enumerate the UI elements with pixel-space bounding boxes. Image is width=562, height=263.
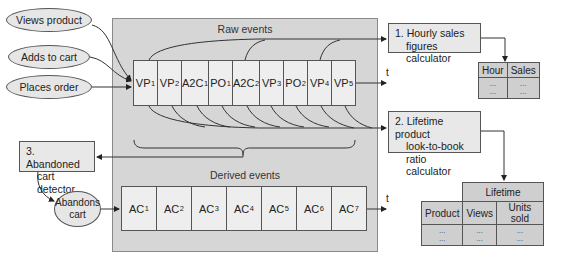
processor-label: look-to-book — [395, 140, 474, 153]
raw-event-cell: VP3 — [260, 61, 284, 105]
look-to-book-calculator: 2. Lifetime product look-to-book ratio c… — [388, 111, 481, 153]
input-places-order: Places order — [6, 75, 92, 99]
derived-event-cell: AC4 — [227, 187, 262, 230]
input-label: Adds to cart — [21, 51, 77, 63]
raw-event-cell: VP5 — [332, 61, 355, 105]
raw-event-cell: VP1 — [134, 61, 158, 105]
raw-event-cell: VP2 — [158, 61, 182, 105]
derived-events-strip: AC1 AC2 AC3 AC4 AC5 AC6 AC7 — [121, 186, 367, 231]
event-label: Abandons — [55, 197, 100, 208]
derived-time-label: t — [386, 193, 389, 204]
processor-label: figures calculator — [395, 40, 474, 65]
input-label: Places order — [20, 81, 79, 93]
abandoned-cart-detector: 3. Abandoned cart detector — [19, 141, 95, 172]
processor-label: 1. Hourly sales — [395, 27, 464, 39]
table-header: Sales — [507, 63, 539, 78]
table-cell: ...... — [479, 78, 508, 99]
raw-event-cell: VP4 — [308, 61, 332, 105]
raw-event-cell: A2C1 — [182, 61, 209, 105]
input-views-product: Views product — [6, 8, 92, 32]
raw-event-cell: PO1 — [209, 61, 233, 105]
derived-events-title: Derived events — [190, 169, 300, 181]
hourly-sales-calculator: 1. Hourly sales figures calculator — [388, 23, 481, 53]
table-cell: ...... — [507, 78, 539, 99]
lifetime-group-header: Lifetime — [462, 182, 544, 202]
processor-label: 2. Lifetime product — [395, 115, 443, 140]
input-label: Views product — [16, 14, 82, 26]
processor-label: 3. Abandoned — [26, 145, 80, 170]
input-adds-to-cart: Adds to cart — [8, 45, 90, 69]
event-label: cart — [69, 209, 86, 220]
raw-time-label: t — [386, 67, 389, 78]
derived-event-cell: AC6 — [297, 187, 332, 230]
derived-event-cell: AC1 — [122, 187, 157, 230]
derived-event-cell: AC5 — [262, 187, 297, 230]
raw-event-cell: PO2 — [284, 61, 308, 105]
processor-label: ratio calculator — [395, 153, 474, 178]
table-header: Product — [422, 202, 463, 225]
table-header: Views — [463, 202, 497, 225]
table-header: Hour — [479, 63, 508, 78]
raw-event-cell: A2C2 — [233, 61, 260, 105]
lifetime-table: Product Views Units sold ...... ...... .… — [421, 201, 544, 246]
abandons-cart-event: Abandonscart — [54, 191, 101, 227]
derived-event-cell: AC7 — [332, 187, 366, 230]
derived-event-cell: AC2 — [157, 187, 192, 230]
raw-events-title: Raw events — [190, 23, 300, 35]
derived-event-cell: AC3 — [192, 187, 227, 230]
table-cell: ...... — [463, 225, 497, 246]
hourly-sales-table: Hour Sales ...... ...... — [478, 62, 540, 99]
table-header: Units sold — [496, 202, 543, 225]
table-cell: ...... — [496, 225, 543, 246]
raw-events-strip: VP1 VP2 A2C1 PO1 A2C2 VP3 PO2 VP4 VP5 — [133, 60, 356, 106]
table-cell: ...... — [422, 225, 463, 246]
